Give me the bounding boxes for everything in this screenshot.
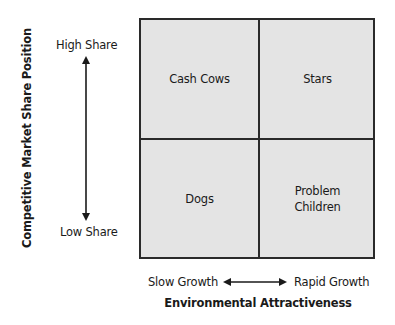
horizontal-double-arrow-icon bbox=[223, 276, 287, 288]
x-axis-low-label: Slow Growth bbox=[148, 275, 218, 289]
quadrant-cash-cows: Cash Cows bbox=[141, 20, 258, 138]
y-axis-title: Competitive Market Share Position bbox=[20, 28, 34, 248]
horizontal-divider bbox=[141, 138, 373, 140]
quadrant-label: Dogs bbox=[185, 191, 213, 207]
quadrant-dogs: Dogs bbox=[141, 140, 258, 257]
quadrant-label: Cash Cows bbox=[169, 71, 230, 87]
quadrant-label: Stars bbox=[303, 71, 332, 87]
quadrant-label: Problem Children bbox=[294, 183, 340, 215]
vertical-double-arrow-icon bbox=[79, 56, 93, 221]
y-axis-low-label: Low Share bbox=[60, 225, 118, 239]
quadrant-stars: Stars bbox=[260, 20, 375, 138]
x-axis-title: Environmental Attractiveness bbox=[164, 296, 351, 310]
matrix-grid: Cash Cows Stars Dogs Problem Children bbox=[139, 18, 375, 259]
quadrant-problem-children: Problem Children bbox=[260, 140, 375, 257]
x-axis-high-label: Rapid Growth bbox=[294, 275, 369, 289]
y-axis-high-label: High Share bbox=[56, 38, 117, 52]
